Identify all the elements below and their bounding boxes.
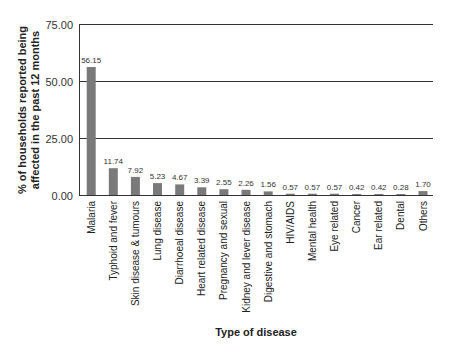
value-label: 1.56 — [260, 180, 276, 189]
value-label: 0.42 — [371, 183, 387, 192]
category-label: Others — [418, 201, 429, 231]
bar — [175, 184, 184, 195]
value-label: 4.67 — [172, 173, 188, 182]
bar — [308, 194, 317, 195]
category-label: Kidney and lever disease — [241, 201, 252, 313]
category-label: Malaria — [86, 201, 97, 234]
value-label: 0.57 — [305, 183, 321, 192]
x-axis-title: Type of disease — [215, 326, 297, 338]
category-label: HIV/AIDS — [285, 201, 296, 244]
y-axis-title-line-1: % of households reported being — [16, 26, 28, 194]
y-axis-title-line-2: affected in the past 12 months — [29, 31, 41, 189]
value-label: 1.70 — [415, 180, 431, 189]
bar — [219, 189, 228, 195]
value-label: 0.42 — [349, 183, 365, 192]
category-label: Lung disease — [152, 201, 163, 261]
y-axis-title: % of households reported being affected … — [16, 26, 41, 194]
category-label: Diarrhoeal disease — [174, 201, 185, 285]
value-label: 0.57 — [327, 183, 343, 192]
category-label: Dental — [395, 201, 406, 230]
value-label: 0.57 — [283, 183, 299, 192]
value-labels: 56.1511.747.925.234.673.392.552.261.560.… — [81, 56, 431, 192]
bar — [109, 168, 118, 195]
value-label: 11.74 — [104, 157, 124, 166]
category-label: Typhoid and fever — [108, 200, 119, 280]
category-label: Ear related — [373, 201, 384, 250]
y-tick-label: 75.00 — [45, 19, 73, 31]
value-label: 5.23 — [150, 172, 166, 181]
bar — [131, 177, 140, 195]
category-label: Mental health — [307, 201, 318, 261]
bar — [396, 194, 405, 195]
bar — [286, 194, 295, 195]
bars — [87, 67, 428, 195]
category-label: Digestive and stomach — [263, 201, 274, 302]
y-tick-label: 25.00 — [45, 133, 73, 145]
category-label: Eye related — [329, 201, 340, 252]
bar — [197, 187, 206, 195]
category-label: Cancer — [351, 200, 362, 233]
bar — [242, 190, 251, 195]
value-label: 7.92 — [128, 166, 144, 175]
bar — [153, 183, 162, 195]
bar — [330, 194, 339, 195]
category-labels: MalariaTyphoid and feverSkin disease & t… — [86, 200, 429, 312]
bar-chart: 0.0025.0050.0075.00 56.1511.747.925.234.… — [0, 0, 451, 354]
value-label: 2.55 — [216, 178, 232, 187]
bar — [87, 67, 96, 195]
y-tick-label: 0.00 — [52, 190, 73, 202]
category-label: Heart related disease — [196, 201, 207, 296]
y-axis-tick-labels: 0.0025.0050.0075.00 — [45, 19, 73, 202]
category-label: Pregnancy and sexual — [218, 201, 229, 300]
bar — [264, 191, 273, 195]
bar — [419, 191, 428, 195]
value-label: 56.15 — [81, 56, 102, 65]
value-label: 3.39 — [194, 176, 210, 185]
y-tick-label: 50.00 — [45, 76, 73, 88]
category-label: Skin disease & tumours — [130, 201, 141, 306]
value-label: 2.26 — [238, 179, 254, 188]
bar — [352, 194, 361, 195]
value-label: 0.28 — [393, 183, 409, 192]
bar — [374, 194, 383, 195]
